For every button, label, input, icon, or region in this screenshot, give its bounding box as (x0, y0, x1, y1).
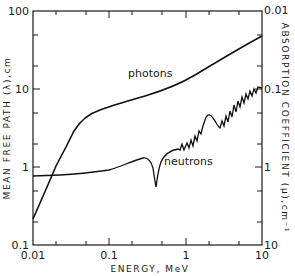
y-axis-right-ticks (255, 35, 262, 222)
svg-text:100: 100 (8, 5, 29, 18)
plot-frame (33, 11, 262, 245)
svg-text:0.01: 0.01 (264, 4, 289, 17)
svg-text:0.1: 0.1 (100, 249, 118, 262)
svg-text:0.1: 0.1 (264, 83, 282, 96)
svg-text:10: 10 (264, 239, 278, 252)
chart: photons neutrons 0.01 0.1 1 10 100 10 1 … (0, 0, 295, 276)
y-axis-left-ticks (33, 35, 40, 222)
neutrons-label: neutrons (164, 155, 213, 168)
neutrons-curve (33, 87, 262, 187)
x-axis-title: ENERGY, MeV (110, 264, 189, 274)
svg-text:10: 10 (15, 83, 29, 96)
svg-text:0.1: 0.1 (12, 239, 30, 252)
svg-text:1: 1 (264, 161, 271, 174)
y-axis-title-right: ABSORPTION COEFFICIENT (μ),cm⁻¹ (280, 23, 290, 234)
svg-text:1: 1 (22, 161, 29, 174)
x-axis-ticks (56, 11, 239, 245)
y-axis-title-left: MEAN FREE PATH (λ),cm (2, 57, 12, 200)
photons-label: photons (128, 67, 173, 80)
svg-text:1: 1 (183, 249, 190, 262)
photons-curve (33, 36, 262, 219)
x-tick-labels: 0.01 0.1 1 10 (21, 249, 269, 262)
